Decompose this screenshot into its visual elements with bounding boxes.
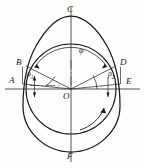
label-right-outer-E: E [126,77,132,86]
radial-lines-group [23,66,120,89]
rotation-direction-arrow-group [80,108,106,130]
tick-arrow-rho2-down [106,93,109,97]
label-angle-rho2-sub: 2 [112,74,115,80]
tick-arrow-rho1-down [33,93,36,97]
label-left-outer-A: A [9,76,15,85]
radial-line-OE [71,84,120,89]
label-bottom-vertex-F: F [67,152,73,161]
phi-arrow-right [102,64,107,69]
label-angle-rho1-sub: 1 [31,74,34,80]
rotation-direction-arc [80,108,104,130]
label-angle-rho2: ρ2 [108,70,115,80]
label-top-vertex-C: C [67,5,73,14]
cam-diagram-svg [0,0,144,168]
label-left-inner-B: B [16,58,22,67]
label-center-O: O [63,92,70,101]
label-angle-rho1: ρ1 [27,70,34,80]
outer-cam-curve-group [23,16,120,152]
cam-geometry-figure: C F A B D E O φ ρ1 ρ2 [0,0,144,168]
label-right-inner-D: D [120,58,127,67]
rotation-direction-arrowhead [100,108,106,113]
outer-cam-curve [23,16,120,152]
label-angle-phi: φ [79,47,83,55]
